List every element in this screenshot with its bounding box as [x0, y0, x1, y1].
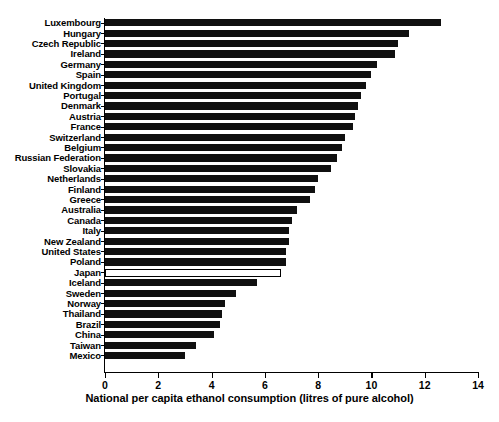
bar	[105, 92, 361, 99]
x-axis-tick	[105, 373, 106, 378]
x-axis-tick	[371, 373, 372, 378]
bar	[105, 123, 353, 130]
bar	[105, 310, 222, 317]
x-axis-tick-label: 12	[419, 379, 431, 391]
x-axis-tick	[158, 373, 159, 378]
x-axis-tick	[478, 373, 479, 378]
bar	[105, 102, 358, 109]
y-axis-line	[104, 18, 105, 373]
x-axis-line	[104, 372, 479, 373]
bar	[105, 154, 337, 161]
bar	[105, 186, 315, 193]
bar	[105, 71, 371, 78]
bar	[105, 113, 355, 120]
x-axis-tick-label: 10	[366, 379, 378, 391]
bar	[105, 19, 441, 26]
bar-highlighted	[105, 269, 281, 277]
bar	[105, 196, 310, 203]
bar	[105, 30, 409, 37]
x-axis-tick	[212, 373, 213, 378]
bar	[105, 206, 297, 213]
x-axis-tick-label: 0	[102, 379, 108, 391]
bar	[105, 300, 225, 307]
plot-area: LuxembourgHungaryCzech RepublicIrelandGe…	[0, 0, 499, 380]
bar	[105, 144, 342, 151]
bar	[105, 352, 185, 359]
x-axis-title: National per capita ethanol consumption …	[0, 392, 499, 404]
bar	[105, 40, 398, 47]
bar	[105, 217, 292, 224]
x-axis-tick-label: 8	[315, 379, 321, 391]
bar	[105, 248, 286, 255]
bar-row: Canada	[0, 216, 499, 226]
bar	[105, 238, 289, 245]
bar	[105, 342, 196, 349]
bar-chart-figure: LuxembourgHungaryCzech RepublicIrelandGe…	[0, 0, 499, 422]
bar	[105, 331, 214, 338]
bar	[105, 61, 377, 68]
bar-row: Mexico	[0, 351, 499, 361]
x-axis-tick-label: 2	[155, 379, 161, 391]
bar	[105, 82, 366, 89]
bar	[105, 227, 289, 234]
bar	[105, 134, 345, 141]
category-label: Mexico	[69, 351, 101, 361]
bar	[105, 175, 318, 182]
x-axis-tick-label: 14	[472, 379, 484, 391]
x-axis-tick-label: 6	[262, 379, 268, 391]
bar	[105, 290, 236, 297]
x-axis-tick	[265, 373, 266, 378]
x-axis-tick-label: 4	[209, 379, 215, 391]
bar	[105, 165, 331, 172]
x-axis-tick	[425, 373, 426, 378]
x-axis-tick	[318, 373, 319, 378]
bar	[105, 279, 257, 286]
bar	[105, 258, 286, 265]
bar	[105, 50, 395, 57]
bar	[105, 321, 220, 328]
